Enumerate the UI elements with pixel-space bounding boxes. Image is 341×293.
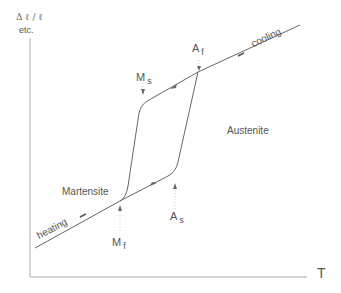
mf-label-main: M <box>112 236 121 248</box>
loop-left-branch <box>120 100 149 201</box>
ms-label: Ms <box>136 71 152 86</box>
heating-direction-mark <box>80 214 86 217</box>
as-label: As <box>170 210 184 225</box>
x-axis-label: T <box>317 265 326 281</box>
y-axis-sublabel: etc. <box>19 25 34 35</box>
y-axis-label: Δ ℓ / ℓ <box>16 12 43 22</box>
as-arrow-icon <box>173 183 177 189</box>
ms-label-sub: s <box>147 76 152 86</box>
as-label-main: A <box>170 210 177 222</box>
hysteresis-diagram <box>0 0 341 293</box>
loop-upper-branch <box>149 72 198 100</box>
mf-label: Mf <box>112 236 126 251</box>
martensite-label: Martensite <box>62 186 109 197</box>
austenite-label: Austenite <box>227 125 269 136</box>
loop-right-branch <box>178 72 198 162</box>
mf-arrow-icon <box>118 205 122 211</box>
as-label-sub: s <box>179 215 184 225</box>
af-arrow-icon <box>197 66 201 71</box>
af-label: Af <box>192 42 204 57</box>
ms-arrow-icon <box>141 89 145 95</box>
af-label-main: A <box>192 42 199 54</box>
mf-label-sub: f <box>123 241 126 251</box>
af-label-sub: f <box>201 47 204 57</box>
ms-label-main: M <box>136 71 145 83</box>
cooling-line <box>198 25 300 72</box>
